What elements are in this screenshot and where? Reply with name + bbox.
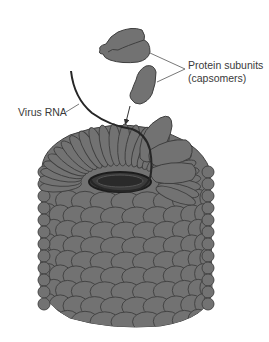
capsomer-rim-bump [202,286,214,298]
capsomer-rim-bump [38,274,50,286]
virus-capsid-diagram: Protein subunits (capsomers) Virus RNA [0,0,269,342]
capsomer-rim-bump [38,202,50,214]
capsomer-free-middle [130,66,156,104]
capsomer-rim-bump [38,226,50,238]
capsomer-rim-bump [202,298,214,310]
capsomer-scale [37,308,52,328]
leader-line-capsomer-middle [157,69,185,82]
capsomer-scales [35,187,216,333]
capsomer-rim-bump [202,190,214,202]
opening-inner [97,175,143,187]
leader-line-capsomer-top [150,53,185,69]
label-capsomers: (capsomers) [188,72,246,84]
capsomer-rim-bump [202,178,214,190]
capsomer-rim-bump [38,286,50,298]
label-virus-rna: Virus RNA [18,106,67,118]
capsomer-rim-bump [38,214,50,226]
capsomer-rim-bump [202,238,214,250]
leader-line-rna [66,104,79,112]
capsomer-incoming-3 [151,163,196,184]
capsomer-free-top [99,28,150,62]
capsomer-rim-bump [202,202,214,214]
capsomer-rim-bump [202,250,214,262]
label-protein-subunits: Protein subunits [188,59,263,71]
capsomer-rim-bump [202,214,214,226]
capsomer-rim-bump [38,262,50,274]
free-capsomers [99,28,156,104]
capsomer-rim-bump [202,274,214,286]
capsomer-rim-bump [202,226,214,238]
capsomer-rim-bump [202,166,214,178]
capsomer-scale [200,308,215,328]
capsomer-rim-bump [38,250,50,262]
capsomer-rim-bump [38,298,50,310]
capsomer-rim-bump [38,238,50,250]
capsomer-scale [188,309,208,329]
attachment-arrow [126,106,130,122]
capsomer-rim-bump [202,262,214,274]
